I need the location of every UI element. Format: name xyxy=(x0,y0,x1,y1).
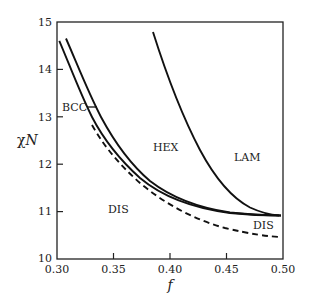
x-axis-ticks xyxy=(114,253,227,259)
x-tick-0.50: 0.50 xyxy=(271,263,296,276)
y-tick-15: 15 xyxy=(38,16,52,29)
phase-diagram: 15 14 13 12 11 10 0.30 0.35 0.40 0.45 0.… xyxy=(0,0,311,305)
y-tick-14: 14 xyxy=(38,63,52,76)
phase-boundaries xyxy=(59,32,281,216)
y-tick-12: 12 xyxy=(38,158,52,171)
y-tick-11: 11 xyxy=(38,205,52,218)
x-tick-0.40: 0.40 xyxy=(158,263,183,276)
y-axis-ticks xyxy=(57,69,63,211)
label-bcc: BCC xyxy=(62,101,87,114)
x-tick-0.45: 0.45 xyxy=(214,263,239,276)
y-tick-13: 13 xyxy=(38,111,52,124)
y-axis-title-n: N xyxy=(24,132,38,148)
label-lam: LAM xyxy=(234,151,261,164)
label-dis-right: DIS xyxy=(253,219,274,232)
x-tick-0.30: 0.30 xyxy=(45,263,70,276)
x-tick-0.35: 0.35 xyxy=(101,263,126,276)
curve-hex-lam xyxy=(153,32,279,216)
label-dis-left: DIS xyxy=(108,203,129,216)
label-hex: HEX xyxy=(153,141,179,154)
x-axis-title: f xyxy=(166,277,175,293)
curve-dis-bcc xyxy=(59,41,281,216)
y-axis-title: χN xyxy=(17,132,38,148)
